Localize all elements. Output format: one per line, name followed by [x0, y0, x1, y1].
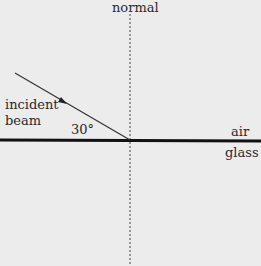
angle-label: 30°: [71, 123, 94, 137]
arrowhead-icon: [58, 97, 67, 104]
air-label: air: [231, 125, 249, 139]
incident-label-line1: incident: [5, 98, 59, 112]
glass-label: glass: [225, 146, 259, 160]
normal-label: normal: [112, 1, 159, 15]
refraction-diagram: [0, 0, 261, 266]
interface-line: [0, 140, 261, 141]
incident-label-line2: beam: [5, 114, 41, 128]
